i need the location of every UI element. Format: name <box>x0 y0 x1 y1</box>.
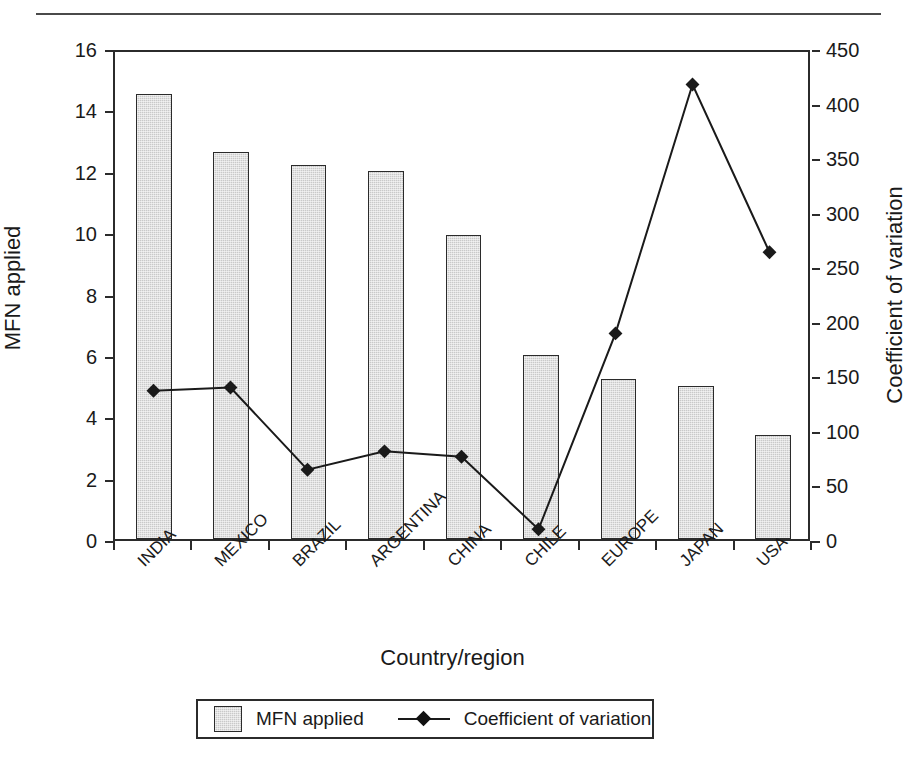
legend-line-diamond-icon <box>398 712 450 726</box>
bar-chile <box>523 355 559 539</box>
y-axis-right-title: Coefficient of variation <box>882 186 905 403</box>
y-axis-left-tick-label: 2 <box>86 470 97 490</box>
y-axis-left-tick-label: 6 <box>86 347 97 367</box>
y-axis-left-tick <box>105 541 113 543</box>
bar-india <box>136 94 172 539</box>
y-axis-left-tick <box>105 480 113 482</box>
x-axis-tick <box>500 541 502 550</box>
bar-mexico <box>213 152 249 539</box>
y-axis-left-tick-label: 12 <box>75 163 97 183</box>
legend-bar-swatch-icon <box>214 706 242 732</box>
x-axis-tick <box>345 541 347 550</box>
y-axis-right-tick-label: 350 <box>826 149 859 169</box>
y-axis-right-tick-label: 300 <box>826 204 859 224</box>
plot-area <box>113 50 810 541</box>
y-axis-right-tick <box>812 105 820 107</box>
y-axis-left-title: MFN applied <box>0 226 26 365</box>
y-axis-right-tick-label: 250 <box>826 258 859 278</box>
y-axis-left-tick <box>105 234 113 236</box>
x-axis-tick <box>733 541 735 550</box>
x-axis-tick <box>423 541 425 550</box>
legend-label-coefficient-of-variation: Coefficient of variation <box>464 708 652 730</box>
y-axis-right-tick <box>812 541 820 543</box>
y-axis-left-tick <box>105 418 113 420</box>
y-axis-right-tick-label: 50 <box>826 476 848 496</box>
x-axis-title: Country/region <box>0 645 905 671</box>
x-axis-tick <box>190 541 192 550</box>
x-axis-tick <box>113 541 115 550</box>
y-axis-left-tick-label: 4 <box>86 408 97 428</box>
y-axis-right-tick <box>812 214 820 216</box>
legend-label-mfn-applied: MFN applied <box>256 708 364 730</box>
y-axis-left-tick <box>105 173 113 175</box>
bar-japan <box>678 386 714 539</box>
chart-legend: MFN applied Coefficient of variation <box>196 699 654 739</box>
y-axis-right-tick <box>812 159 820 161</box>
legend-item-mfn-applied: MFN applied <box>214 706 364 732</box>
y-axis-left-tick <box>105 50 113 52</box>
y-axis-left-tick-label: 10 <box>75 224 97 244</box>
bar-china <box>446 235 482 539</box>
x-axis-tick <box>655 541 657 550</box>
top-horizontal-rule <box>36 13 881 15</box>
y-axis-left-tick <box>105 357 113 359</box>
bar-europe <box>601 379 637 539</box>
y-axis-left-tick <box>105 296 113 298</box>
y-axis-left-tick-label: 16 <box>75 40 97 60</box>
y-axis-right-tick <box>812 486 820 488</box>
y-axis-left-tick-label: 0 <box>86 531 97 551</box>
y-axis-right-tick <box>812 323 820 325</box>
bar-series-layer <box>115 52 808 539</box>
figure-chart-mfn-applied-vs-coefficient-of-variation: 0246810121416 MFN applied 05010015020025… <box>0 0 905 776</box>
y-axis-right-tick-label: 0 <box>826 531 837 551</box>
x-axis-tick <box>578 541 580 550</box>
y-axis-right-tick <box>812 50 820 52</box>
y-axis-right-tick-label: 400 <box>826 95 859 115</box>
y-axis-left-tick <box>105 111 113 113</box>
x-axis-tick <box>268 541 270 550</box>
legend-item-coefficient-of-variation: Coefficient of variation <box>398 708 652 730</box>
y-axis-right-tick-label: 200 <box>826 313 859 333</box>
y-axis-right-tick <box>812 432 820 434</box>
y-axis-right-tick <box>812 268 820 270</box>
bar-brazil <box>291 165 327 539</box>
bar-usa <box>755 435 791 539</box>
y-axis-left-tick-label: 14 <box>75 101 97 121</box>
x-axis-tick <box>810 541 812 550</box>
y-axis-right-tick <box>812 377 820 379</box>
y-axis-right-tick-label: 100 <box>826 422 859 442</box>
y-axis-right-tick-label: 150 <box>826 367 859 387</box>
y-axis-right-tick-label: 450 <box>826 40 859 60</box>
y-axis-left-tick-label: 8 <box>86 286 97 306</box>
bar-argentina <box>368 171 404 539</box>
